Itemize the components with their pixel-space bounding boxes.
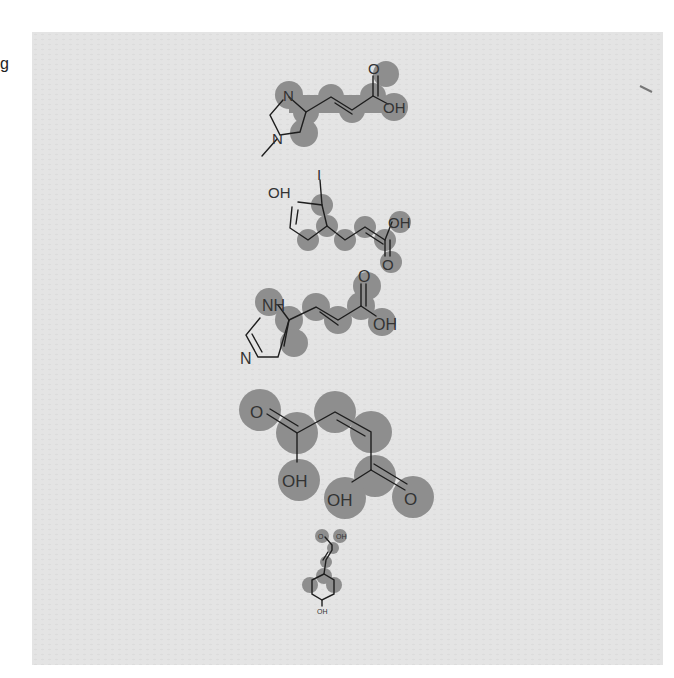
atom-i: I [317, 166, 321, 183]
atom-o: O [404, 490, 417, 509]
atom-n: N [283, 87, 294, 104]
atom-o: O [358, 268, 370, 285]
molecule-maleic-acid: O OH OH O [239, 389, 434, 519]
atom-oh: OH [336, 533, 347, 540]
atom-oh: OH [383, 99, 406, 116]
atom-o: O [250, 403, 263, 422]
atom-n: N [240, 350, 252, 367]
atom-nh: NH [262, 297, 285, 314]
atom-oh: OH [268, 184, 291, 201]
atom-oh: OH [327, 491, 353, 510]
atom-oh: OH [373, 316, 397, 333]
molecule-p-coumaric-acid: O OH OH [302, 529, 347, 615]
atom-o: O [382, 256, 394, 273]
atom-oh: OH [282, 472, 308, 491]
atom-oh: OH [388, 214, 411, 231]
molecule-diagram: N N O OH OH I OH O [0, 0, 674, 678]
atom-o: O [318, 533, 324, 540]
molecule-urocanic-acid: NH N O OH [240, 268, 397, 367]
molecule-1-methylurocanic-acid: N N O OH [262, 60, 408, 156]
molecule-iodo-coumaric-acid: OH I OH O [268, 166, 411, 273]
atom-oh: OH [317, 608, 328, 615]
atom-n: N [272, 130, 283, 147]
scan-mark [640, 86, 652, 92]
atom-o: O [368, 60, 380, 77]
